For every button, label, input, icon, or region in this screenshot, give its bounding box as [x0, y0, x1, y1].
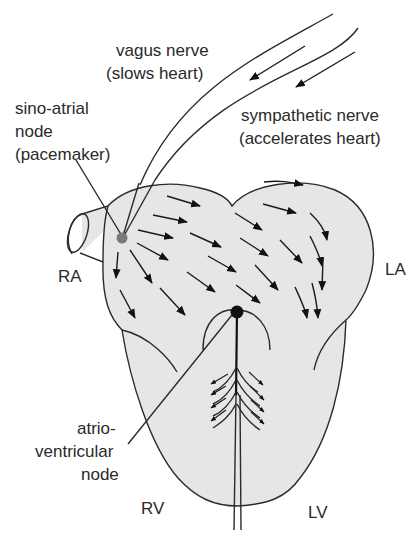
sympathetic-label-line2: (accelerates heart)	[239, 129, 381, 148]
right-ventricle-label: RV	[141, 499, 165, 518]
sa-node-label-line1: sino-atrial	[15, 99, 89, 118]
sa-node-label-line3: (pacemaker)	[15, 145, 110, 164]
sa-node	[117, 233, 128, 244]
av-node-label-line2: ventricular	[35, 442, 114, 461]
bundle-branch-right	[240, 395, 241, 530]
av-node-label-line3: node	[81, 465, 119, 484]
left-atrium-label: LA	[385, 260, 406, 279]
av-node-label-line1: atrio-	[77, 419, 116, 438]
sympathetic-arrow	[296, 52, 355, 87]
bundle-of-his	[236, 312, 237, 395]
heart-conduction-diagram: vagus nerve (slows heart) sympathetic ne…	[0, 0, 415, 547]
right-atrium-label: RA	[58, 267, 82, 286]
vagus-label-line1: vagus nerve	[116, 41, 209, 60]
vagus-label-line2: (slows heart)	[106, 64, 203, 83]
vagus-arrow	[250, 46, 305, 80]
sa-node-label-line2: node	[15, 122, 53, 141]
sympathetic-label-line1: sympathetic nerve	[241, 106, 379, 125]
vagus-nerve	[140, 14, 333, 185]
left-ventricle-label: LV	[308, 503, 328, 522]
av-node	[231, 306, 244, 319]
